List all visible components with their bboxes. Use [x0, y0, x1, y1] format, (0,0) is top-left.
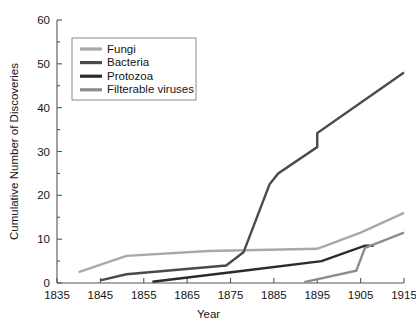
y-tick-label-30: 30: [37, 146, 50, 158]
y-tick-label-20: 20: [37, 189, 50, 201]
data-series-group: [79, 73, 404, 283]
series-line-fungi: [79, 213, 404, 272]
x-tick-label-1885: 1885: [261, 289, 287, 301]
x-tick-label-1835: 1835: [44, 289, 70, 301]
y-tick-label-40: 40: [37, 102, 50, 114]
x-tick-label-1855: 1855: [131, 289, 157, 301]
series-line-protozoa: [152, 246, 373, 282]
x-tick-label-1865: 1865: [174, 289, 200, 301]
y-tick-marks: [57, 20, 62, 283]
y-tick-label-10: 10: [37, 233, 50, 245]
x-tick-label-1895: 1895: [304, 289, 330, 301]
line-chart: 0102030405060 Cumulative Number of Disco…: [0, 0, 416, 328]
x-tick-label-1915: 1915: [391, 289, 416, 301]
y-axis-title: Cumulative Number of Discoveries: [8, 63, 20, 240]
chart-container: 0102030405060 Cumulative Number of Disco…: [0, 0, 416, 328]
x-tick-label-1875: 1875: [218, 289, 244, 301]
x-axis-group: 183518451855186518751885189519051915 Yea…: [44, 278, 416, 320]
y-axis-group: 0102030405060 Cumulative Number of Disco…: [8, 14, 62, 289]
y-tick-label-0: 0: [44, 277, 50, 289]
x-tick-labels: 183518451855186518751885189519051915: [44, 289, 416, 301]
y-tick-labels: 0102030405060: [37, 14, 50, 289]
y-tick-label-50: 50: [37, 58, 50, 70]
y-tick-label-60: 60: [37, 14, 50, 26]
legend-label-bacteria: Bacteria: [107, 56, 150, 68]
x-axis-title: Year: [197, 308, 220, 320]
legend-label-filterable-viruses: Filterable viruses: [107, 83, 194, 95]
x-tick-label-1845: 1845: [88, 289, 114, 301]
legend-label-protozoa: Protozoa: [107, 70, 154, 82]
series-line-filterable-viruses: [304, 233, 404, 283]
legend-label-fungi: Fungi: [107, 43, 136, 55]
chart-legend: FungiBacteriaProtozoaFilterable viruses: [72, 38, 196, 100]
x-tick-label-1905: 1905: [348, 289, 374, 301]
